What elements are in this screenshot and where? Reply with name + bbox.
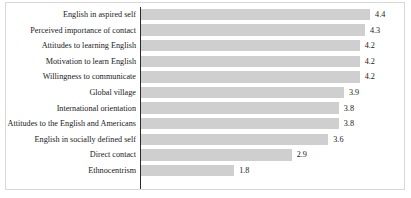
bar-zone: 2.9 [140,147,411,163]
bar [140,118,339,130]
bar [140,71,360,83]
bar-row: Direct contact2.9 [0,147,411,163]
value-label: 2.9 [297,147,307,163]
bar [140,87,344,99]
bar-row: Attitudes to the English and Americans3.… [0,116,411,132]
bar-row: Ethnocentrism1.8 [0,163,411,179]
bar-row: Global village3.9 [0,85,411,101]
category-axis-line [140,7,141,189]
category-label: Direct contact [0,147,140,163]
value-label: 3.8 [344,101,354,117]
bar-zone: 4.2 [140,54,411,70]
bar-row: Attitudes to learning English4.2 [0,38,411,54]
bar [140,165,234,177]
bar-zone: 4.2 [140,69,411,85]
bar-zone: 3.6 [140,132,411,148]
bar [140,24,365,36]
bar [140,102,339,114]
category-label: English in socially defined self [0,132,140,148]
bar-zone: 4.4 [140,7,411,23]
bar-zone: 1.8 [140,163,411,179]
bottom-rule [5,189,405,190]
category-label: Attitudes to learning English [0,38,140,54]
category-label: Attitudes to the English and Americans [0,116,140,132]
bar-row: Perceived importance of contact4.3 [0,23,411,39]
bar [140,134,328,146]
bar-rows: English in aspired self4.4Perceived impo… [0,7,411,189]
bar [140,56,360,68]
bar-row: English in socially defined self3.6 [0,132,411,148]
bar-chart: English in aspired self4.4Perceived impo… [0,0,411,198]
category-label: Willingness to communicate [0,69,140,85]
bar-zone: 3.8 [140,116,411,132]
bar-row: International orientation3.8 [0,101,411,117]
category-label: English in aspired self [0,7,140,23]
bar-zone: 4.3 [140,23,411,39]
bar [140,40,360,52]
value-label: 3.8 [344,116,354,132]
value-label: 3.9 [349,85,359,101]
category-label: International orientation [0,101,140,117]
category-label: Ethnocentrism [0,163,140,179]
value-label: 4.4 [375,7,385,23]
bar [140,9,370,21]
bar-row: Willingness to communicate4.2 [0,69,411,85]
category-label: Perceived importance of contact [0,23,140,39]
value-label: 4.2 [365,38,375,54]
bar-zone: 4.2 [140,38,411,54]
bar-row: Motivation to learn English4.2 [0,54,411,70]
bar [140,149,292,161]
bar-row: English in aspired self4.4 [0,7,411,23]
category-label: Motivation to learn English [0,54,140,70]
value-label: 4.3 [370,23,380,39]
value-label: 3.6 [333,132,343,148]
category-label: Global village [0,85,140,101]
value-label: 1.8 [239,163,249,179]
value-label: 4.2 [365,69,375,85]
bar-zone: 3.9 [140,85,411,101]
bar-zone: 3.8 [140,101,411,117]
value-label: 4.2 [365,54,375,70]
